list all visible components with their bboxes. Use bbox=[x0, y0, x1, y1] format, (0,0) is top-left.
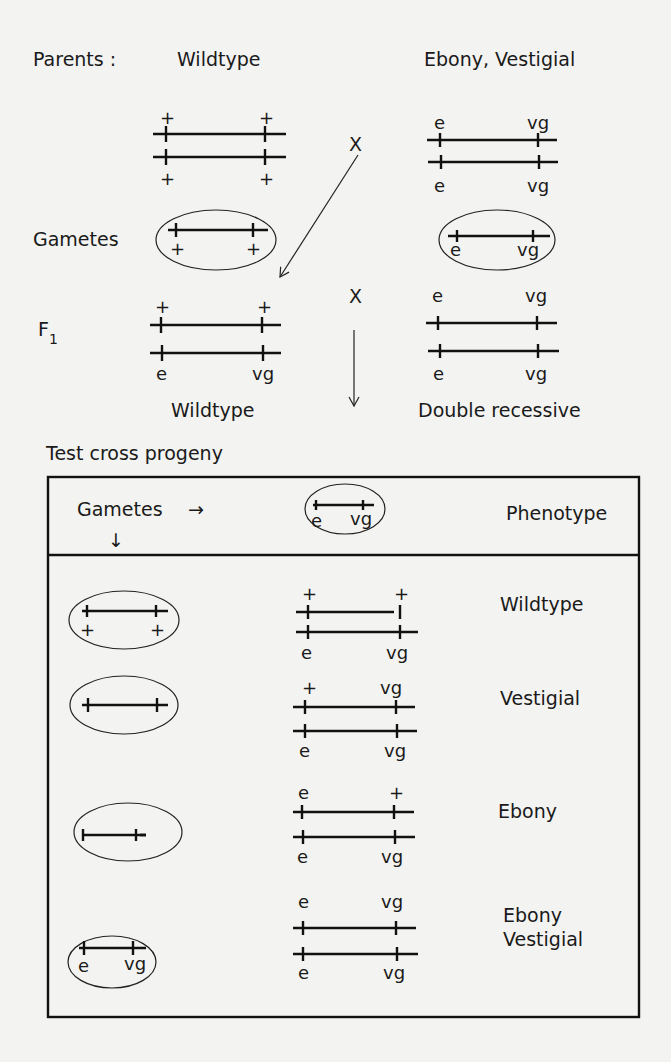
allele-label: + bbox=[160, 168, 175, 189]
progeny-row-vestigial: + vg e vg Vestigial bbox=[70, 676, 580, 761]
allele-label: e bbox=[299, 740, 310, 761]
gametes-label: Gametes bbox=[33, 228, 119, 250]
allele-label: e bbox=[298, 782, 309, 803]
allele-label: vg bbox=[381, 846, 403, 867]
allele-label: vg bbox=[525, 285, 547, 306]
allele-label: + bbox=[150, 619, 165, 640]
allele-label: vg bbox=[384, 740, 406, 761]
allele-label: e bbox=[434, 112, 445, 133]
allele-label: e bbox=[78, 955, 89, 976]
phenotype-label: Vestigial bbox=[500, 687, 580, 709]
allele-label: + bbox=[302, 583, 317, 604]
allele-label: + bbox=[246, 238, 261, 259]
f1-label: F1 bbox=[38, 318, 58, 347]
parents-label: Parents : bbox=[33, 48, 116, 70]
allele-label: + bbox=[302, 677, 317, 698]
genetic-cross-diagram: Parents : Wildtype Ebony, Vestigial + + … bbox=[0, 0, 671, 1062]
allele-label: vg bbox=[527, 175, 549, 196]
allele-label: e bbox=[311, 510, 322, 531]
cross-arrow bbox=[280, 155, 358, 277]
allele-label: vg bbox=[350, 508, 372, 529]
header-gametes-label: Gametes bbox=[77, 498, 163, 520]
allele-label: e bbox=[297, 846, 308, 867]
double-recessive-chromosomes: e vg e vg bbox=[426, 285, 559, 384]
allele-label: vg bbox=[383, 962, 405, 983]
wildtype-gamete: + + bbox=[156, 210, 276, 270]
f1-chromosomes: + + e vg bbox=[150, 296, 281, 384]
allele-label: vg bbox=[527, 112, 549, 133]
allele-label: e bbox=[156, 363, 167, 384]
allele-label: vg bbox=[517, 239, 539, 260]
allele-label: e bbox=[450, 239, 461, 260]
phenotype-label: Ebony bbox=[498, 800, 557, 822]
allele-label: vg bbox=[525, 363, 547, 384]
allele-label: e bbox=[301, 642, 312, 663]
allele-label: + bbox=[155, 296, 170, 317]
mutant-parent-chromosomes: e vg e vg bbox=[427, 112, 558, 196]
phenotype-label: Vestigial bbox=[503, 928, 583, 950]
allele-label: + bbox=[257, 296, 272, 317]
header-gamete: e vg bbox=[305, 484, 385, 534]
allele-label: + bbox=[80, 619, 95, 640]
allele-label: e bbox=[298, 891, 309, 912]
down-arrow-icon: ↓ bbox=[108, 529, 124, 551]
f1-caption: Wildtype bbox=[171, 399, 254, 421]
right-arrow-icon: → bbox=[188, 498, 204, 520]
mutant-gamete: e vg bbox=[439, 210, 555, 270]
allele-label: e bbox=[298, 962, 309, 983]
double-recessive-caption: Double recessive bbox=[418, 399, 581, 421]
allele-label: + bbox=[259, 107, 274, 128]
phenotype-label: Wildtype bbox=[500, 593, 583, 615]
allele-label: + bbox=[259, 168, 274, 189]
allele-label: e bbox=[434, 175, 445, 196]
mutant-parent-title: Ebony, Vestigial bbox=[424, 48, 575, 70]
cross-symbol: X bbox=[349, 285, 362, 307]
cross-symbol: X bbox=[349, 133, 362, 155]
phenotype-label: Ebony bbox=[503, 904, 562, 926]
allele-label: e bbox=[433, 363, 444, 384]
phenotype-header: Phenotype bbox=[506, 502, 607, 524]
test-cross-title: Test cross progeny bbox=[45, 442, 223, 464]
allele-label: vg bbox=[386, 642, 408, 663]
gamete-ellipse bbox=[74, 803, 182, 861]
allele-label: vg bbox=[380, 677, 402, 698]
progeny-row-ebony: e + e vg Ebony bbox=[74, 782, 557, 867]
allele-label: + bbox=[160, 107, 175, 128]
allele-label: vg bbox=[252, 363, 274, 384]
allele-label: e bbox=[432, 285, 443, 306]
allele-label: + bbox=[389, 782, 404, 803]
progeny-row-wildtype: + + + + e vg Wildtype bbox=[69, 583, 583, 663]
allele-label: + bbox=[394, 583, 409, 604]
allele-label: vg bbox=[124, 953, 146, 974]
wildtype-parent-chromosomes: + + + + bbox=[153, 107, 286, 189]
allele-label: vg bbox=[381, 891, 403, 912]
progeny-row-ebony-vestigial: e vg e vg e vg Ebony Vestigial bbox=[68, 891, 583, 988]
allele-label: + bbox=[170, 238, 185, 259]
wildtype-parent-title: Wildtype bbox=[177, 48, 260, 70]
